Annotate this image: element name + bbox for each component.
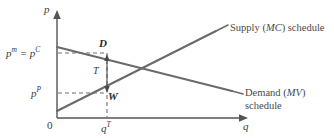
supply-caption-part2: ) schedule — [282, 22, 325, 33]
supply-label-leader — [216, 25, 228, 31]
demand-schedule-caption: Demand (MV) schedule — [245, 86, 305, 112]
supply-caption-mc: MC — [266, 22, 282, 33]
consumer-price-sup2: C — [35, 45, 40, 54]
y-axis-arrowhead — [53, 10, 61, 19]
demand-caption-mv: MV — [287, 87, 302, 98]
supply-curve-line — [57, 31, 216, 111]
supply-caption-part1: Supply ( — [230, 22, 266, 33]
y-axis-label: p — [44, 4, 50, 15]
supply-schedule-caption: Supply (MC) schedule — [230, 21, 325, 34]
producer-price-sup: P — [37, 85, 42, 94]
demand-curve-line — [57, 47, 232, 91]
taxed-quantity-tick-label: qT — [101, 121, 111, 134]
demand-caption-part2: ) — [302, 87, 306, 98]
supply-demand-tax-wedge-figure: p q 0 pm = pC pP qT D W T Supply (MC) sc… — [0, 0, 334, 138]
demand-caption-row2: schedule — [245, 100, 282, 111]
point-w-label: W — [108, 91, 118, 102]
demand-label-leader — [232, 91, 243, 94]
tax-wedge-label: T — [93, 66, 99, 76]
producer-price-tick-label: pP — [31, 86, 41, 99]
origin-label: 0 — [47, 120, 53, 131]
consumer-price-tick-label: pm = pC — [6, 46, 40, 59]
x-axis-label: q — [243, 121, 249, 132]
consumer-price-eq: = p — [17, 47, 35, 59]
taxed-quantity-sup: T — [107, 120, 111, 129]
tax-wedge-arrowhead-up — [104, 54, 109, 61]
demand-caption-part1: Demand ( — [245, 87, 287, 98]
point-d-label: D — [99, 38, 107, 49]
